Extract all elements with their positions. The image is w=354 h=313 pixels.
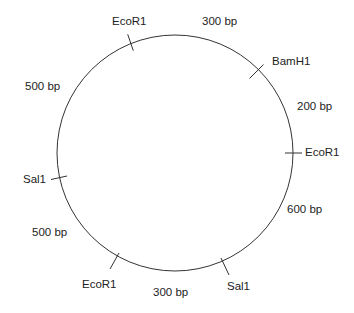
site-label-sal1-left: Sal1	[23, 174, 46, 186]
site-tick-bamh1	[250, 65, 264, 79]
fragment-label-ecor1-sal1: 600 bp	[287, 204, 322, 216]
site-label-bamh1: BamH1	[272, 56, 310, 68]
site-tick-sal1-bottom	[221, 258, 229, 275]
fragment-label-bamh1-ecor1: 200 bp	[297, 101, 332, 113]
site-label-sal1-bottom: Sal1	[227, 281, 250, 293]
site-label-ecor1-bottom: EcoR1	[82, 279, 117, 291]
fragment-label-ecor1-sal1-left: 500 bp	[32, 227, 67, 239]
plasmid-map-diagram: EcoR1 BamH1 EcoR1 Sal1 EcoR1 Sal1 300 bp…	[0, 0, 354, 313]
fragment-label-sal1-ecor1: 300 bp	[153, 287, 188, 299]
fragment-label-sal1-ecor1-top: 500 bp	[25, 81, 60, 93]
fragment-label-ecor1-bamh1: 300 bp	[202, 16, 237, 28]
site-tick-ecor1-bottom	[110, 253, 119, 269]
plasmid-map-graphic	[0, 0, 354, 313]
site-label-ecor1-top: EcoR1	[112, 16, 147, 28]
site-label-ecor1-right: EcoR1	[305, 147, 340, 159]
